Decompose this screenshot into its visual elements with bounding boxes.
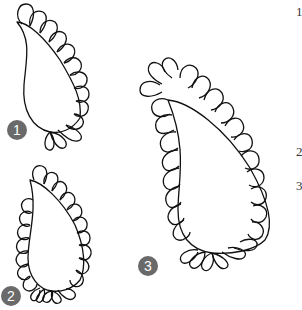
edge-number-3: 3: [296, 178, 302, 194]
paisley-2: [16, 166, 91, 304]
badge-1: 1: [7, 120, 27, 140]
edge-number-1: 1: [296, 4, 302, 20]
badge-2: 2: [1, 286, 21, 306]
paisley-1: [17, 4, 89, 150]
badge-3: 3: [138, 256, 158, 276]
paisley-3: [140, 58, 270, 270]
edge-number-2: 2: [296, 144, 302, 160]
